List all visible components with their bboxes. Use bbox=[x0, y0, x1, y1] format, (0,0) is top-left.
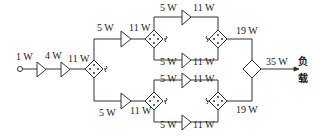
amp2-output-label: 11 W bbox=[68, 54, 89, 64]
termination-icon bbox=[104, 66, 107, 72]
lower-sub-b-drive-label: 5 W bbox=[160, 120, 177, 130]
upper-driver-out-label: 11 W bbox=[129, 23, 150, 33]
upper-drive-label: 5 W bbox=[97, 23, 114, 33]
lower-drive-label: 5 W bbox=[99, 108, 116, 118]
upper-sub-b-out-label: 11 W bbox=[193, 57, 214, 67]
termination-icon bbox=[164, 36, 167, 42]
load-label-bottom: 载 bbox=[298, 74, 308, 84]
upper-combined-label: 19 W bbox=[236, 26, 258, 36]
lower-combined-label: 19 W bbox=[236, 105, 258, 115]
upper-sub-a-drive-label: 5 W bbox=[160, 3, 177, 13]
upper-final-amp-a-icon bbox=[182, 10, 191, 25]
output-power-label: 35 W bbox=[266, 57, 288, 67]
termination-icon bbox=[164, 98, 167, 104]
final-combiner-icon bbox=[243, 60, 261, 78]
upper-driver-amp-icon bbox=[121, 31, 131, 47]
upper-final-amp-b-icon bbox=[182, 53, 191, 68]
amp1-output-label: 4 W bbox=[45, 51, 62, 61]
lower-sub-a-drive-label: 5 W bbox=[160, 74, 177, 84]
amplifier-network-diagram bbox=[0, 0, 320, 137]
output-arrow-icon bbox=[294, 67, 299, 71]
upper-combiner-icon bbox=[209, 30, 227, 48]
lower-combiner-icon bbox=[209, 92, 227, 110]
input-port-icon bbox=[18, 67, 23, 72]
termination-icon bbox=[206, 36, 209, 42]
amplifier-2-icon bbox=[61, 62, 70, 77]
amplifier-1-icon bbox=[37, 62, 46, 77]
lower-final-amp-b-icon bbox=[182, 115, 191, 130]
upper-sub-a-out-label: 11 W bbox=[193, 3, 214, 13]
termination-icon bbox=[206, 98, 209, 104]
lower-driver-out-label: 11 W bbox=[130, 106, 151, 116]
lower-final-amp-a-icon bbox=[182, 73, 191, 88]
lower-sub-b-out-label: 11 W bbox=[193, 120, 214, 130]
lower-sub-a-out-label: 11 W bbox=[193, 74, 214, 84]
load-label-top: 负 bbox=[298, 57, 308, 67]
input-power-label: 1 W bbox=[16, 52, 33, 62]
upper-sub-b-drive-label: 5 W bbox=[160, 57, 177, 67]
